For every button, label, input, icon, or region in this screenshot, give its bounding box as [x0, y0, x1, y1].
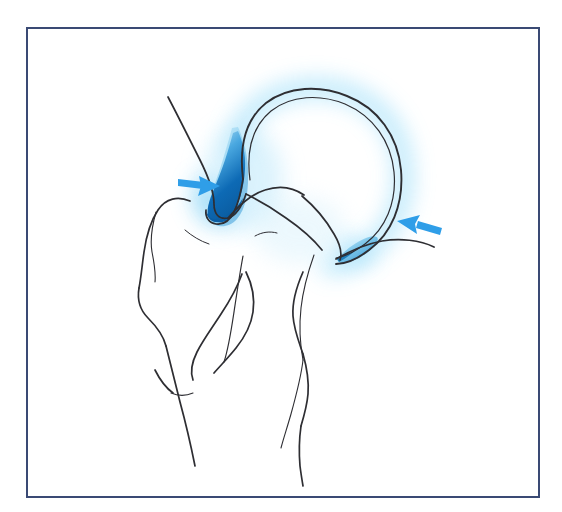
anatomic-neck-curve [214, 272, 254, 373]
medial-cortex-lower [166, 346, 195, 466]
bicipital-groove-left [224, 256, 243, 362]
tuberosity-inner-curve [192, 274, 242, 380]
bone-line-art [138, 89, 434, 486]
screenshot-root: shoulder joint (proximal humerus / gleno… [0, 0, 562, 512]
groove-floor-detail [185, 230, 209, 244]
arrow-right[interactable] [397, 215, 442, 235]
neck-junction-notch [171, 393, 193, 395]
medial-cortex-mid [138, 288, 166, 346]
lateral-cortex-upper [293, 272, 303, 354]
medial-neck-flare [155, 370, 173, 393]
arrow-right-shaft [416, 221, 442, 235]
shoulder-joint-illustration [0, 0, 562, 512]
lateral-inner-cortex [300, 255, 314, 360]
medial-cortex-upper [139, 198, 190, 288]
lateral-cortex-lower [299, 426, 303, 486]
